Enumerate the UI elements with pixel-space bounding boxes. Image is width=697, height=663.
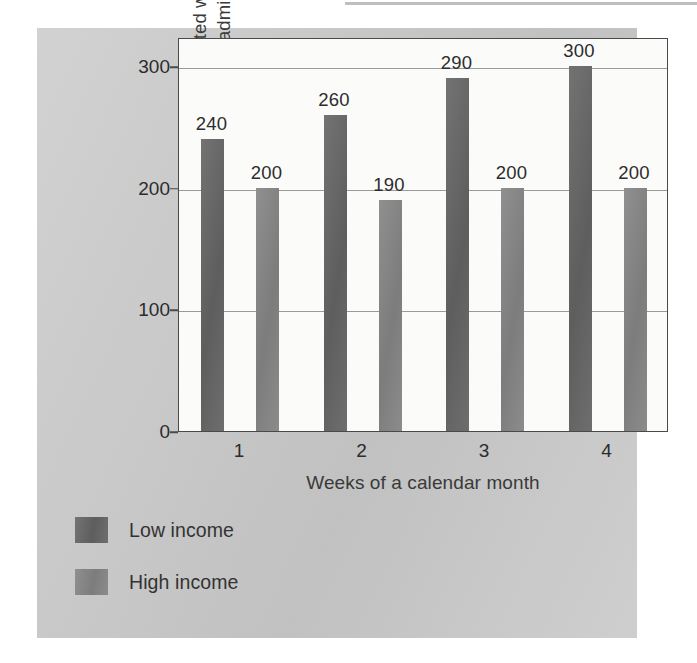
bar-low-income-week-2 bbox=[324, 115, 347, 431]
gridline bbox=[179, 311, 667, 312]
scan-artifact-line bbox=[345, 2, 697, 5]
y-axis-tick-mark bbox=[170, 310, 178, 312]
bar-value-label: 300 bbox=[563, 40, 594, 62]
gridline bbox=[179, 190, 667, 191]
bar-value-label: 290 bbox=[441, 52, 472, 74]
y-axis-tick-label: 100 bbox=[138, 299, 170, 321]
bar-value-label: 200 bbox=[251, 162, 282, 184]
legend-label: High income bbox=[129, 571, 238, 594]
bar-value-label: 200 bbox=[496, 162, 527, 184]
bar-low-income-week-1 bbox=[201, 139, 224, 431]
bar-high-income-week-1 bbox=[256, 188, 279, 431]
y-axis-tick-label: 300 bbox=[138, 56, 170, 78]
y-axis-tick-mark bbox=[170, 66, 178, 68]
legend-item: High income bbox=[75, 569, 238, 595]
bar-low-income-week-4 bbox=[569, 66, 592, 431]
y-axis-tick-label: 0 bbox=[159, 421, 170, 443]
bar-high-income-week-4 bbox=[624, 188, 647, 431]
x-axis-tick-label: 1 bbox=[234, 440, 245, 462]
bar-low-income-week-3 bbox=[446, 78, 469, 431]
x-axis-tick-label: 2 bbox=[356, 440, 367, 462]
bar-value-label: 190 bbox=[373, 174, 404, 196]
bar-value-label: 200 bbox=[618, 162, 649, 184]
legend-swatch bbox=[75, 517, 108, 543]
legend-item: Low income bbox=[75, 517, 238, 543]
y-axis-tick-mark bbox=[170, 431, 178, 433]
bar-high-income-week-2 bbox=[379, 200, 402, 431]
y-axis-tick-mark bbox=[170, 188, 178, 190]
x-axis-tick-label: 3 bbox=[479, 440, 490, 462]
legend-swatch bbox=[75, 569, 108, 595]
x-axis-title: Weeks of a calendar month bbox=[178, 472, 668, 494]
y-axis: 0100200300 Number of people admitted wit… bbox=[112, 38, 170, 432]
bar-value-label: 240 bbox=[196, 113, 227, 135]
x-axis-tick-label: 4 bbox=[601, 440, 612, 462]
plot-area bbox=[178, 38, 668, 432]
bar-high-income-week-3 bbox=[501, 188, 524, 431]
y-axis-tick-label: 200 bbox=[138, 178, 170, 200]
gridline bbox=[179, 68, 667, 69]
bar-value-label: 260 bbox=[318, 89, 349, 111]
legend-label: Low income bbox=[129, 519, 234, 542]
legend: Low incomeHigh income bbox=[75, 517, 238, 621]
